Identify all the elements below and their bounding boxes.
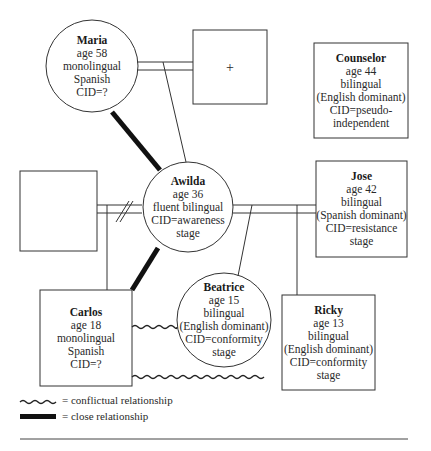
legend-conflictual: = conflictual relationship xyxy=(62,394,173,406)
node-line: bilingual xyxy=(341,78,382,91)
node-line: age 42 xyxy=(346,183,376,196)
node-line: stage xyxy=(317,369,341,382)
node-line: age 58 xyxy=(77,47,107,60)
node-unknown-male-top: + xyxy=(193,30,267,104)
node-line: independent xyxy=(333,117,389,130)
node-name: Beatrice xyxy=(204,281,245,294)
node-line: age 15 xyxy=(209,294,239,307)
node-line: age 13 xyxy=(313,317,343,330)
node-line: age 18 xyxy=(71,319,101,332)
node-line: age 44 xyxy=(346,65,376,78)
node-name: Carlos xyxy=(70,306,103,319)
node-line: CID=pseudo- xyxy=(330,104,393,117)
node-beatrice: Beatrice age 15 bilingual (English domin… xyxy=(177,273,271,367)
node-line: age 36 xyxy=(173,188,203,201)
node-line: bilingual xyxy=(341,196,382,209)
node-carlos: Carlos age 18 monolingual Spanish CID=? xyxy=(40,290,132,386)
legend-close: = close relationship xyxy=(62,410,148,422)
node-ricky: Ricky age 13 bilingual (English dominant… xyxy=(282,295,375,390)
node-line: CID=? xyxy=(70,358,101,371)
node-name: Ricky xyxy=(314,304,343,317)
node-line: CID=conformity xyxy=(185,333,262,346)
node-maria: Maria age 58 monolingual Spanish CID=? xyxy=(46,20,138,112)
node-jose: Jose age 42 bilingual (Spanish dominant)… xyxy=(316,161,407,257)
node-line: fluent bilingual xyxy=(153,201,224,214)
node-line: monolingual xyxy=(57,332,115,345)
node-line: bilingual xyxy=(308,330,349,343)
node-line: (Spanish dominant) xyxy=(316,209,406,222)
node-name: Maria xyxy=(77,34,108,47)
node-line: monolingual Spanish xyxy=(46,60,138,86)
node-name: Jose xyxy=(351,170,372,183)
node-line: CID=? xyxy=(76,86,107,99)
node-line: stage xyxy=(212,346,236,359)
node-line: CID=resistance xyxy=(326,222,398,235)
node-awilda: Awilda age 36 fluent bilingual CID=aware… xyxy=(143,162,233,252)
node-line: stage xyxy=(350,235,374,248)
node-line: CID=awareness xyxy=(151,214,225,227)
deceased-plus-icon: + xyxy=(226,61,234,74)
legend-close-label: = close relationship xyxy=(62,410,148,422)
node-line: (English dominant) xyxy=(316,91,405,104)
node-counselor: Counselor age 44 bilingual (English domi… xyxy=(314,43,408,138)
node-name: Counselor xyxy=(336,52,386,65)
node-line: (English dominant) xyxy=(284,343,373,356)
node-line: (English dominant) xyxy=(179,320,268,333)
node-line: Spanish xyxy=(68,345,104,358)
node-line: CID=conformity xyxy=(290,356,367,369)
node-line: bilingual xyxy=(204,307,245,320)
node-line: stage xyxy=(176,227,200,240)
legend-conflictual-label: = conflictual relationship xyxy=(62,394,173,406)
node-name: Awilda xyxy=(171,175,205,188)
